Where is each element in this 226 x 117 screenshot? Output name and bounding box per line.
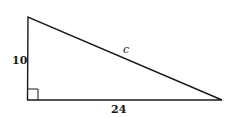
right-triangle — [28, 17, 223, 100]
right-angle-marker — [28, 89, 38, 100]
vertical-leg-label: 10 — [12, 54, 28, 67]
hypotenuse-label: c — [123, 43, 129, 56]
triangle-diagram: 10 c 24 — [0, 0, 226, 117]
horizontal-leg-label: 24 — [111, 103, 127, 116]
